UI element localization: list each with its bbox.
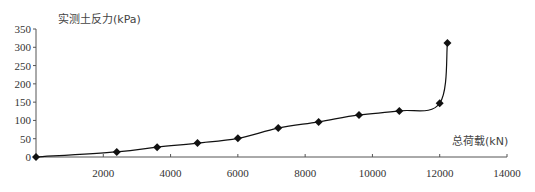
diamond-marker — [234, 134, 242, 142]
load-reaction-chart: 0501001502002503003502000400060008000100… — [0, 0, 535, 192]
diamond-marker — [274, 124, 282, 132]
y-tick-label: 300 — [15, 41, 32, 53]
diamond-marker — [153, 143, 161, 151]
x-tick-label: 2000 — [92, 167, 115, 179]
x-tick-label: 8000 — [294, 167, 317, 179]
diamond-marker — [113, 148, 121, 156]
diamond-marker — [395, 107, 403, 115]
diamond-marker — [32, 153, 40, 161]
y-tick-label: 150 — [15, 96, 32, 108]
x-tick-label: 14000 — [493, 167, 521, 179]
diamond-marker — [443, 39, 451, 47]
y-tick-label: 50 — [20, 133, 32, 145]
diamond-marker — [315, 118, 323, 126]
y-axis-title: 实测土反力(kPa) — [58, 12, 141, 26]
y-tick-label: 350 — [15, 23, 32, 35]
x-tick-label: 4000 — [160, 167, 183, 179]
x-tick-label: 6000 — [227, 167, 250, 179]
axes — [36, 29, 507, 157]
data-line — [36, 43, 447, 157]
diamond-marker — [355, 111, 363, 119]
x-tick-label: 10000 — [359, 167, 387, 179]
y-tick-label: 100 — [15, 114, 32, 126]
data-markers — [32, 39, 451, 161]
y-tick-label: 250 — [15, 60, 32, 72]
y-tick-label: 0 — [26, 151, 32, 163]
x-tick-label: 12000 — [426, 167, 454, 179]
x-axis-title: 总荷载(kN) — [452, 134, 508, 148]
axis-ticks: 0501001502002503003502000400060008000100… — [15, 23, 522, 179]
diamond-marker — [193, 139, 201, 147]
y-tick-label: 200 — [15, 78, 32, 90]
